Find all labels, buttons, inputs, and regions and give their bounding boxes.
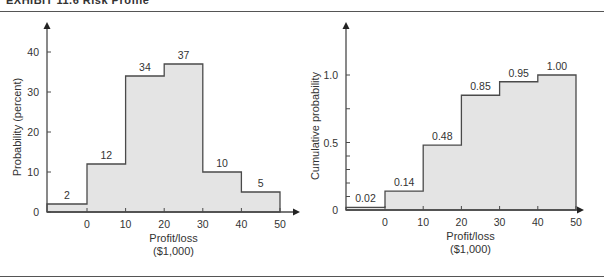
chart2-x-tick-label: 20 [456, 216, 468, 228]
chart2-value-label: 0.85 [470, 80, 491, 92]
chart2-value-label: 1.00 [547, 60, 568, 72]
chart1-y-tick-label: 10 [27, 166, 39, 178]
chart2-x-axis-title: Profit/loss [446, 230, 495, 242]
chart1-x-axis-unit: ($1,000) [153, 245, 194, 257]
chart1-x-tick-label: 0 [84, 218, 90, 230]
chart2-y-axis-arrow-icon [343, 22, 350, 29]
chart2-value-label: 0.95 [508, 67, 529, 79]
charts-canvas: 010203040500102030402123437105Probabilit… [0, 0, 608, 278]
chart1-x-axis-title: Profit/loss [149, 232, 198, 244]
chart2-x-tick-label: 10 [417, 216, 429, 228]
chart2-x-tick-label: 40 [532, 216, 544, 228]
chart1-value-label: 2 [64, 189, 70, 201]
chart2-value-label: 0.02 [355, 192, 376, 204]
chart2-y-axis-title: Cumulative probability [309, 71, 321, 180]
chart2-x-axis-unit: ($1,000) [450, 243, 491, 255]
chart2-x-tick-label: 30 [494, 216, 506, 228]
chart2-value-label: 0.14 [394, 176, 415, 188]
chart1-step-area [47, 64, 280, 212]
chart2-step-area [346, 75, 576, 210]
chart2-x-axis-arrow-icon [577, 207, 584, 214]
chart1-y-tick-label: 40 [27, 46, 39, 58]
chart1-x-axis-arrow-icon [293, 209, 300, 216]
chart2-y-tick-label: 0 [332, 204, 338, 216]
chart1-y-axis-title: Probability (percent) [11, 78, 23, 176]
chart2-y-tick-label: 0.5 [323, 137, 338, 149]
chart2-x-tick-label: 50 [570, 216, 582, 228]
chart1-value-label: 12 [100, 149, 112, 161]
chart1-value-label: 5 [258, 177, 264, 189]
chart1-value-label: 10 [216, 157, 228, 169]
chart1-y-tick-label: 20 [27, 126, 39, 138]
chart1-value-label: 37 [178, 49, 190, 61]
chart1-y-axis-arrow-icon [44, 22, 51, 29]
chart1-y-tick-label: 0 [33, 206, 39, 218]
chart1-x-tick-label: 50 [274, 218, 286, 230]
chart2-x-tick-label: 0 [382, 216, 388, 228]
chart2-y-tick-label: 1.0 [323, 69, 338, 81]
chart1-y-tick-label: 30 [27, 86, 39, 98]
chart1-x-tick-label: 30 [197, 218, 209, 230]
chart1-x-tick-label: 10 [120, 218, 132, 230]
chart1-x-tick-label: 40 [236, 218, 248, 230]
chart2-value-label: 0.48 [432, 130, 453, 142]
chart1-x-tick-label: 20 [158, 218, 170, 230]
chart1-value-label: 34 [139, 61, 151, 73]
